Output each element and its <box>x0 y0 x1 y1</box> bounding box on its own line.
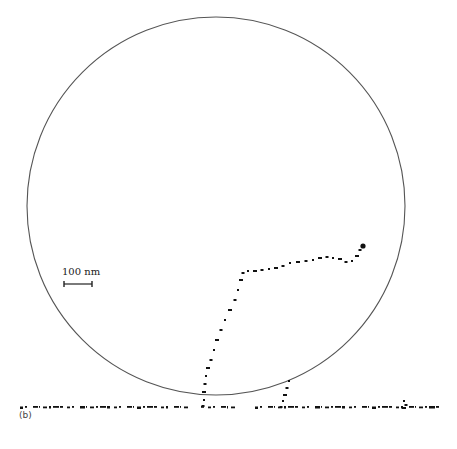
substrate-trajectory-line <box>20 406 439 409</box>
trajectory-end-marker <box>402 400 408 409</box>
panel-label: (b) <box>19 410 32 420</box>
cell-boundary-circle <box>27 17 405 395</box>
scale-bar <box>64 281 92 287</box>
figure-canvas <box>0 0 457 449</box>
particle-trajectory-branch <box>280 380 291 408</box>
scale-bar-label: 100 nm <box>62 266 100 277</box>
